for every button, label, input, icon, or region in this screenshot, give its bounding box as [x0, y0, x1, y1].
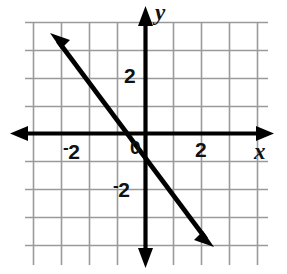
x-axis-label: x	[254, 140, 266, 163]
x-axis-arrow-left	[10, 126, 28, 141]
y-axis-arrow-up	[138, 6, 153, 26]
graph-canvas	[0, 0, 287, 274]
y-tick-label-two: 2	[124, 65, 135, 86]
x-tick-label-two: 2	[195, 139, 206, 160]
line-arrow-upper-left	[50, 33, 70, 49]
x-axis	[10, 126, 274, 141]
x-tick-label-negative-two: -2	[63, 139, 79, 162]
origin-label: 0	[130, 138, 141, 157]
y-tick-label-negative-two: -2	[113, 177, 129, 200]
line-arrow-lower-right	[194, 231, 214, 247]
coordinate-plane-figure: -2 2 2 -2 0 x y	[0, 0, 287, 274]
y-axis-label: y	[155, 1, 165, 24]
y-axis-arrow-down	[138, 248, 153, 268]
